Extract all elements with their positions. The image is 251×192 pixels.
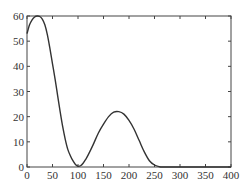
y-axis: 0102030405060 — [13, 10, 231, 173]
x-tick-label: 250 — [146, 169, 163, 181]
x-tick-label: 0 — [24, 169, 30, 181]
x-tick-label: 150 — [95, 169, 112, 181]
y-tick-label: 10 — [13, 136, 25, 148]
x-tick-label: 200 — [121, 169, 138, 181]
data-line — [27, 16, 231, 167]
y-tick-label: 40 — [13, 60, 25, 72]
y-tick-label: 50 — [13, 35, 25, 47]
y-tick-label: 0 — [19, 161, 25, 173]
y-tick-label: 60 — [13, 10, 25, 22]
y-tick-label: 20 — [13, 111, 25, 123]
line-chart: 050100150200250300350400 0102030405060 — [0, 0, 251, 192]
x-tick-label: 350 — [197, 169, 214, 181]
y-tick-label: 30 — [13, 86, 25, 98]
x-tick-label: 100 — [70, 169, 87, 181]
x-tick-label: 50 — [47, 169, 59, 181]
x-tick-label: 300 — [172, 169, 189, 181]
x-tick-label: 400 — [223, 169, 240, 181]
x-axis: 050100150200250300350400 — [24, 16, 240, 181]
